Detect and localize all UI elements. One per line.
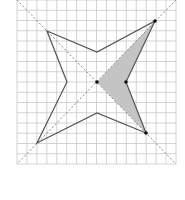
point-right-inner: [124, 80, 128, 84]
point-center: [95, 80, 99, 84]
geometry-figure: [0, 0, 185, 200]
point-bottom-right-vertex: [144, 131, 148, 135]
point-top-right-vertex: [153, 19, 157, 23]
